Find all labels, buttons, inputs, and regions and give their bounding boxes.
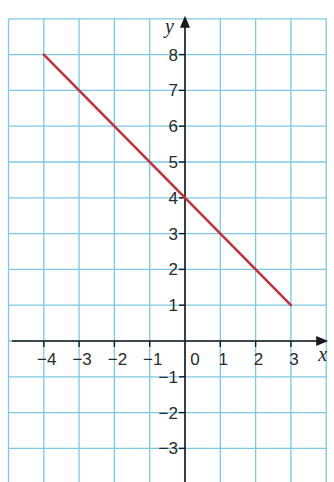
y-tick-label: 4	[169, 189, 178, 208]
x-tick-label: −1	[143, 350, 162, 369]
y-tick-label: 8	[169, 46, 178, 65]
y-tick-label: −1	[159, 368, 178, 387]
y-tick-label: 3	[169, 225, 178, 244]
tick-labels: −4−3−2−1012387654321−1−2−3	[37, 46, 299, 459]
tick-marks	[44, 55, 291, 449]
x-tick-label: −2	[108, 350, 127, 369]
x-tick-label: −4	[37, 350, 56, 369]
x-tick-label: 0	[190, 350, 199, 369]
x-tick-label: −3	[72, 350, 91, 369]
y-tick-label: 5	[169, 153, 178, 172]
coordinate-graph: −4−3−2−1012387654321−1−2−3 x y	[0, 0, 334, 482]
data-series	[44, 55, 291, 306]
data-line	[44, 55, 291, 306]
y-tick-label: 2	[169, 260, 178, 279]
x-tick-label: 1	[219, 350, 228, 369]
y-axis-label: y	[163, 15, 174, 38]
y-axis-arrow-icon	[180, 16, 190, 28]
y-tick-label: 1	[169, 296, 178, 315]
x-tick-label: 2	[254, 350, 263, 369]
y-tick-label: −3	[159, 439, 178, 458]
x-axis-label: x	[317, 343, 327, 365]
y-tick-label: −2	[159, 404, 178, 423]
y-tick-label: 6	[169, 117, 178, 136]
y-tick-label: 7	[169, 81, 178, 100]
x-tick-label: 3	[289, 350, 298, 369]
